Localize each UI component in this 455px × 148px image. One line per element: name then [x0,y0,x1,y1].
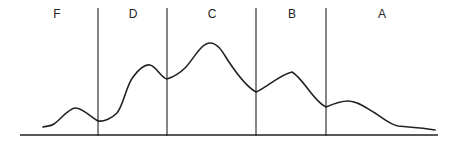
region-labels: FDCBA [53,7,386,21]
segmented-curve-diagram: FDCBA [0,0,455,148]
region-label-b: B [288,7,296,21]
region-label-d: D [129,7,138,21]
region-label-f: F [53,7,60,21]
region-label-c: C [208,7,217,21]
region-label-a: A [378,7,386,21]
distribution-curve [43,43,435,130]
